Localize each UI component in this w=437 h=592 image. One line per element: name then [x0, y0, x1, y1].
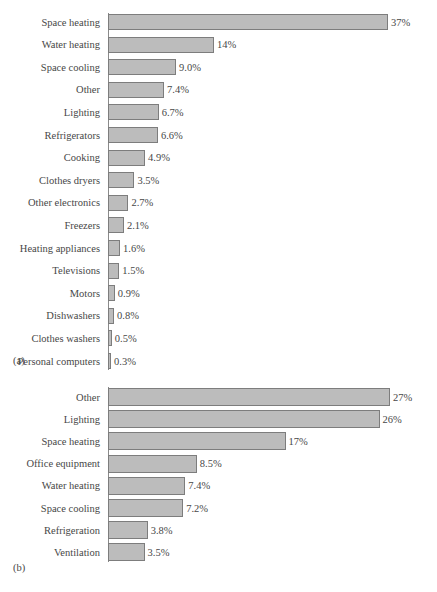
category-label: Motors	[0, 289, 100, 300]
bar-row: Cooking4.9%	[0, 150, 437, 166]
category-label: Other electronics	[0, 198, 100, 209]
bar	[108, 240, 120, 256]
value-label: 7.2%	[186, 504, 208, 515]
bar-row: Clothes dryers3.5%	[0, 172, 437, 188]
bar	[108, 127, 158, 143]
bar	[108, 82, 164, 98]
category-label: Other	[0, 393, 100, 404]
bar-row: Motors0.9%	[0, 285, 437, 301]
panel-label-b: (b)	[13, 563, 25, 574]
bar-row: Water heating7.4%	[0, 477, 437, 495]
value-label: 6.7%	[162, 108, 184, 119]
bar	[108, 37, 214, 53]
bar-row: Other electronics2.7%	[0, 195, 437, 211]
category-label: Clothes dryers	[0, 176, 100, 187]
bar-row: Televisions1.5%	[0, 263, 437, 279]
bar	[108, 477, 185, 495]
bar-row: Office equipment8.5%	[0, 455, 437, 473]
value-label: 3.5%	[137, 176, 159, 187]
bar-row: Lighting6.7%	[0, 104, 437, 120]
category-label: Dishwashers	[0, 311, 100, 322]
category-label: Space cooling	[0, 63, 100, 74]
bar	[108, 353, 111, 369]
value-label: 0.5%	[115, 334, 137, 345]
category-label: Space heating	[0, 437, 100, 448]
value-label: 14%	[217, 40, 236, 51]
value-label: 6.6%	[161, 131, 183, 142]
category-label: Heating appliances	[0, 244, 100, 255]
value-label: 17%	[289, 437, 308, 448]
bar	[108, 455, 197, 473]
value-label: 7.4%	[188, 481, 210, 492]
bar-row: Space cooling9.0%	[0, 59, 437, 75]
value-label: 26%	[383, 415, 402, 426]
bar	[108, 499, 183, 517]
bar	[108, 432, 286, 450]
category-label: Water heating	[0, 40, 100, 51]
bar	[108, 172, 134, 188]
category-label: Office equipment	[0, 459, 100, 470]
bar	[108, 104, 159, 120]
value-label: 7.4%	[167, 85, 189, 96]
bar-row: Space heating17%	[0, 432, 437, 450]
panel-label-a: (a)	[13, 356, 25, 367]
value-label: 0.8%	[117, 311, 139, 322]
bar-row: Water heating14%	[0, 37, 437, 53]
value-label: 9.0%	[179, 63, 201, 74]
value-label: 27%	[393, 393, 412, 404]
category-label: Clothes washers	[0, 334, 100, 345]
category-label: Space cooling	[0, 504, 100, 515]
bar-row: Refrigeration3.8%	[0, 521, 437, 539]
bar-row: Refrigerators6.6%	[0, 127, 437, 143]
category-label: Refrigerators	[0, 131, 100, 142]
bar-row: Other7.4%	[0, 82, 437, 98]
bar-row: Freezers2.1%	[0, 217, 437, 233]
bar-row: Space cooling7.2%	[0, 499, 437, 517]
category-label: Space heating	[0, 18, 100, 29]
bar-row: Ventilation3.5%	[0, 543, 437, 561]
category-label: Cooking	[0, 153, 100, 164]
bar-row: Clothes washers0.5%	[0, 330, 437, 346]
category-label: Water heating	[0, 481, 100, 492]
bar	[108, 14, 388, 30]
category-label: Lighting	[0, 108, 100, 119]
value-label: 8.5%	[200, 459, 222, 470]
figure-panel-b: Other27%Lighting26%Space heating17%Offic…	[0, 372, 437, 592]
bar-row: Dishwashers0.8%	[0, 308, 437, 324]
category-label: Refrigeration	[0, 526, 100, 537]
bar	[108, 217, 124, 233]
bar	[108, 150, 145, 166]
figure-panel-a: Space heating37%Water heating14%Space co…	[0, 0, 437, 372]
bar-row: Other27%	[0, 388, 437, 406]
bar	[108, 195, 128, 211]
category-label: Other	[0, 85, 100, 96]
category-label: Lighting	[0, 415, 100, 426]
bar	[108, 59, 176, 75]
value-label: 1.6%	[123, 244, 145, 255]
category-label: Ventilation	[0, 548, 100, 559]
bar	[108, 543, 145, 561]
bar-row: Lighting26%	[0, 410, 437, 428]
value-label: 0.9%	[118, 289, 140, 300]
bar	[108, 410, 380, 428]
value-label: 3.5%	[148, 548, 170, 559]
bar	[108, 308, 114, 324]
bar	[108, 521, 148, 539]
bar-row: Space heating37%	[0, 14, 437, 30]
category-label: Freezers	[0, 221, 100, 232]
value-label: 2.7%	[131, 198, 153, 209]
value-label: 2.1%	[127, 221, 149, 232]
value-label: 4.9%	[148, 153, 170, 164]
value-label: 3.8%	[151, 526, 173, 537]
category-label: Televisions	[0, 266, 100, 277]
value-label: 37%	[391, 18, 410, 29]
bar	[108, 330, 112, 346]
bar-row: Heating appliances1.6%	[0, 240, 437, 256]
bar-row: Personal computers0.3%	[0, 353, 437, 369]
bar	[108, 263, 119, 279]
value-label: 1.5%	[122, 266, 144, 277]
bar	[108, 285, 115, 301]
value-label: 0.3%	[114, 357, 136, 368]
bar	[108, 388, 390, 406]
